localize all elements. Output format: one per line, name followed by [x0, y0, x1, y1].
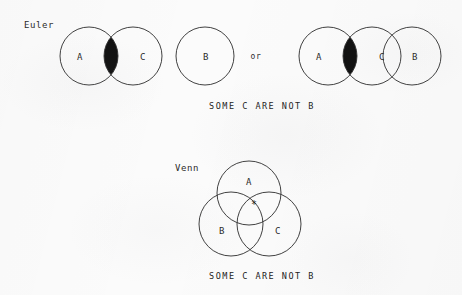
venn-caption: SOME C ARE NOT B	[209, 271, 315, 281]
venn-ab-not-c-hatched-region	[195, 180, 275, 250]
euler-variant-1-group	[60, 27, 162, 85]
euler-v1-label-c: C	[140, 52, 146, 62]
scanned-figure-page: Euler A C B or A C B SOME C ARE NOT B Ve…	[0, 0, 462, 295]
venn-circle-a	[217, 161, 281, 225]
euler-section-label: Euler	[24, 20, 54, 30]
euler-conjunction-label: or	[251, 52, 262, 61]
venn-label-c: C	[275, 226, 281, 236]
venn-label-b: B	[219, 226, 225, 236]
venn-circle-c	[237, 192, 301, 256]
venn-section-label: Venn	[175, 163, 199, 173]
venn-label-a: A	[246, 177, 252, 187]
euler-v2-label-b: B	[412, 52, 418, 62]
venn-group	[195, 161, 301, 256]
euler-v2-label-a: A	[316, 52, 322, 62]
venn-asterisk-marker: *	[251, 200, 257, 210]
euler-v1-label-a: A	[77, 52, 83, 62]
euler-v2-label-c: C	[379, 52, 385, 62]
euler-caption: SOME C ARE NOT B	[209, 101, 315, 111]
logic-diagram-canvas	[0, 0, 462, 295]
euler-v1-label-b: B	[203, 52, 209, 62]
